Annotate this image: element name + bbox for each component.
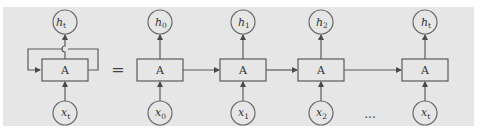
folded-output-node: ht xyxy=(53,10,77,34)
svg-text:A: A xyxy=(155,64,165,77)
ellipsis: ... xyxy=(364,107,375,121)
rnn-diagram: ht A xt = h0 A x0 xyxy=(0,0,480,140)
folded-cell: A xyxy=(42,59,88,81)
svg-text:A: A xyxy=(238,64,248,77)
svg-text:A: A xyxy=(316,64,326,77)
folded-input-node: xt xyxy=(53,101,77,125)
svg-text:A: A xyxy=(420,64,430,77)
svg-text:A: A xyxy=(60,64,70,77)
equals-sign: = xyxy=(111,60,124,79)
